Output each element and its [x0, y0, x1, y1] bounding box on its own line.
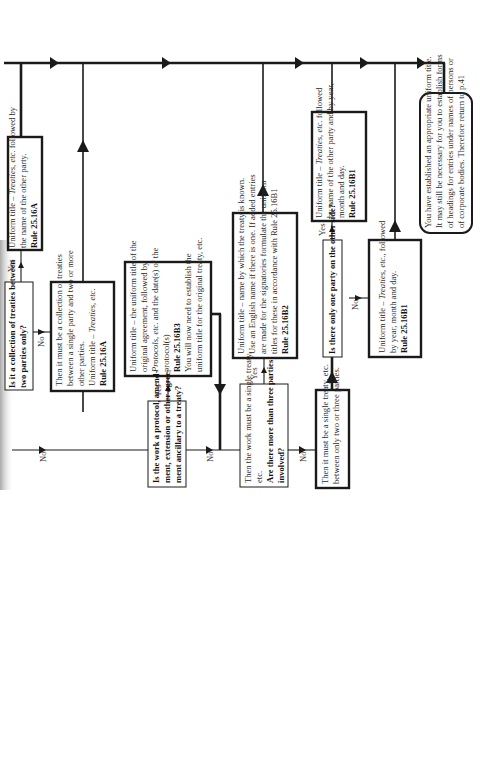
- svg-text:Protocols, etc. and the date(s: Protocols, etc. and the date(s) of the: [150, 248, 160, 373]
- svg-text:It may still be necessary for: It may still be necessary for you to est…: [434, 54, 444, 228]
- svg-text:Rule 25.16B1: Rule 25.16B1: [347, 169, 357, 218]
- svg-text:two parties only?: two parties only?: [18, 325, 28, 388]
- svg-text:the name of the other party.: the name of the other party.: [18, 154, 28, 248]
- svg-text:other parties.: other parties.: [76, 341, 86, 386]
- arrow-right-icon: [360, 57, 369, 69]
- svg-text:month and day.: month and day.: [336, 165, 346, 218]
- svg-text:Uniform title – name by which: Uniform title – name by which the treaty…: [236, 178, 246, 354]
- svg-text:Is there only one party on the: Is there only one party on the other sid…: [327, 204, 337, 354]
- svg-text:You have established an approp: You have established an appropriate unif…: [423, 56, 433, 228]
- svg-text:uniform title for the original: uniform title for the original treaty, e…: [194, 237, 204, 372]
- text-end-terminal: You have established an appropriate unif…: [423, 54, 466, 228]
- svg-text:between a single party and two: between a single party and two or more: [65, 250, 75, 386]
- svg-text:original agreement, followed b: original agreement, followed by: [139, 261, 149, 372]
- main-collector-line: [4, 57, 450, 134]
- svg-text:protocol(s): protocol(s): [161, 334, 171, 372]
- flowchart: Is it a collection of treaties between t…: [0, 0, 504, 763]
- svg-text:Uniform title – Treaties, etc.: Uniform title – Treaties, etc.: [87, 288, 97, 386]
- connector-a-protocol-out: [211, 314, 226, 450]
- text-q-one-party: Is there only one party on the other sid…: [327, 204, 337, 354]
- svg-text:You will now need to establish: You will now need to establish the: [183, 253, 193, 372]
- svg-text:ment, extension or other agree: ment, extension or other agree-: [162, 369, 172, 483]
- label-yes-q-more-than-three: Yes: [249, 367, 259, 380]
- svg-text:between only two or three part: between only two or three parties.: [331, 367, 341, 484]
- svg-text:Is it a collection of treaties: Is it a collection of treaties between: [7, 260, 17, 388]
- label-no-q-collection: No: [36, 336, 46, 347]
- svg-text:titles for these in accordance: titles for these in accordance with Rule…: [269, 188, 279, 354]
- svg-text:by year, month and day.: by year, month and day.: [388, 271, 398, 353]
- svg-text:Rule 25.16A: Rule 25.16A: [98, 340, 108, 386]
- connector-q-collection-no: [33, 329, 51, 335]
- svg-text:Rule 25.16B2: Rule 25.16B2: [280, 305, 290, 354]
- svg-text:ment ancillary to a treaty?: ment ancillary to a treaty?: [173, 386, 183, 483]
- svg-text:Uniform title – the uniform ti: Uniform title – the uniform title of the: [128, 240, 138, 372]
- label-no-q-one-party: No: [350, 299, 360, 310]
- svg-text:Are there more than three part: Are there more than three parties: [265, 359, 275, 483]
- arrow-right-icon: [162, 57, 171, 69]
- svg-text:etc.: etc.: [254, 471, 264, 483]
- svg-text:of headings for entries under: of headings for entries under names of p…: [445, 58, 455, 228]
- svg-text:Uniform title – Treaties, etc.: Uniform title – Treaties, etc., followed: [377, 220, 387, 353]
- svg-text:Then it must be a collection o: Then it must be a collection of treaties: [54, 253, 64, 386]
- svg-text:involved?: involved?: [276, 448, 286, 483]
- label-no-start: No: [38, 451, 48, 462]
- svg-text:of corporate bodies. Therefore: of corporate bodies. Therefore return to…: [456, 75, 466, 228]
- label-yes-q-protocol: Yes: [153, 384, 163, 397]
- label-yes-q-one-party: Yes: [317, 223, 327, 236]
- connector-q-collection-yes: [18, 250, 24, 282]
- svg-text:Use an English name if there i: Use an English name if there is one. If …: [247, 174, 257, 354]
- svg-text:Rule 25.16A: Rule 25.16A: [29, 202, 39, 248]
- text-a-two-or-three: Then it must be a single treaty, etc. be…: [320, 364, 341, 484]
- label-yes-q-collection: Yes: [6, 259, 16, 272]
- svg-text:Uniform title – Treaties, etc.: Uniform title – Treaties, etc. followed …: [7, 106, 17, 248]
- svg-text:Rule 25.16B1: Rule 25.16B1: [399, 304, 409, 353]
- svg-text:are made for the signatories f: are made for the signatories formulate t…: [258, 180, 268, 354]
- label-no-q-more-than-three: No: [298, 451, 308, 462]
- svg-text:Then it must be a single treat: Then it must be a single treaty, etc.: [320, 364, 330, 484]
- svg-text:Uniform title – Treaties, etc.: Uniform title – Treaties, etc. followed: [314, 87, 324, 218]
- svg-text:by name of the other party and: by name of the other party and by year,: [325, 83, 335, 218]
- svg-text:Rule 25.16B3: Rule 25.16B3: [172, 323, 182, 372]
- arrow-right-icon: [295, 57, 304, 69]
- label-no-q-protocol: No: [205, 451, 215, 462]
- arrow-right-icon: [50, 57, 59, 69]
